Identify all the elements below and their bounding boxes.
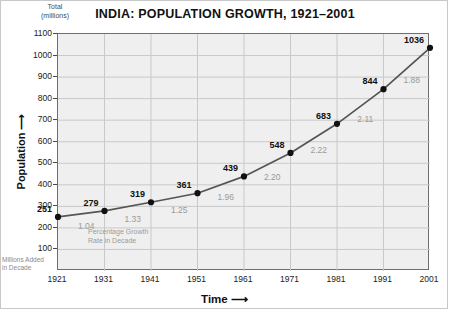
y-tick-label: 1100 [18, 28, 52, 38]
growth-rate-label: 2.20 [264, 172, 281, 182]
millions-added-caption: Millions Added in Decade [2, 256, 54, 272]
data-point-value-label: 279 [83, 198, 98, 208]
data-point-value-label: 1036 [404, 35, 424, 45]
x-tick-label: 1991 [363, 274, 403, 284]
y-tick-label: 400 [18, 179, 52, 189]
data-point-marker [241, 173, 247, 179]
chart-title: INDIA: POPULATION GROWTH, 1921–2001 [60, 7, 390, 21]
data-point-marker [380, 86, 386, 92]
data-point-marker [334, 121, 340, 127]
data-point-value-label: 319 [130, 189, 145, 199]
y-tick-label: 600 [18, 136, 52, 146]
y-tick-label: 500 [18, 157, 52, 167]
data-point-value-label: 361 [176, 180, 191, 190]
y-tick-label: 200 [18, 222, 52, 232]
data-point-value-label: 548 [269, 140, 284, 150]
growth-rate-label: 1.96 [217, 192, 234, 202]
y-axis-title: Population ⟶ [15, 97, 28, 207]
growth-rate-caption: Percentage Growth Rate in Decade [88, 228, 148, 245]
millions-added-caption-line1: Millions Added [2, 256, 54, 264]
growth-rate-caption-line2: Rate in Decade [88, 237, 148, 246]
x-tick-label: 1951 [177, 274, 217, 284]
x-tick-label: 1961 [223, 274, 263, 284]
y-tick-label: 100 [18, 243, 52, 253]
y-tick-label: 800 [18, 93, 52, 103]
data-point-marker [101, 208, 107, 214]
millions-added-caption-line2: in Decade [2, 264, 54, 272]
data-point-marker [194, 190, 200, 196]
growth-rate-label: 1.33 [124, 214, 141, 224]
growth-rate-label: 2.22 [310, 145, 327, 155]
data-point-marker [148, 199, 154, 205]
y-tick-label: 900 [18, 71, 52, 81]
growth-rate-label: 1.88 [403, 75, 420, 85]
growth-rate-label: 2.11 [357, 114, 373, 124]
data-point-value-label: 844 [362, 76, 377, 86]
x-tick-label: 1981 [316, 274, 356, 284]
data-point-value-label: 439 [223, 163, 238, 173]
growth-rate-caption-line1: Percentage Growth [88, 228, 148, 237]
data-point-marker [427, 45, 433, 51]
chart-figure: Total (millions) INDIA: POPULATION GROWT… [0, 0, 449, 310]
y-tick-label: 1000 [18, 50, 52, 60]
data-point-marker [55, 214, 61, 220]
x-tick-label: 2001 [409, 274, 449, 284]
x-tick-label: 1941 [130, 274, 170, 284]
data-point-value-label: 683 [316, 111, 331, 121]
data-point-value-label: 251 [37, 204, 52, 214]
x-tick-label: 1931 [84, 274, 124, 284]
data-point-marker [287, 150, 293, 156]
growth-rate-label: 1.25 [171, 205, 188, 215]
x-tick-label: 1921 [37, 274, 77, 284]
x-tick-label: 1971 [270, 274, 310, 284]
x-axis-title: Time ⟶ [0, 292, 449, 306]
y-tick-label: 700 [18, 114, 52, 124]
